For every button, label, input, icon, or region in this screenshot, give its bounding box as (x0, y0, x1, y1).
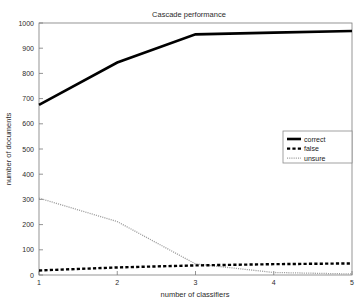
series-line-correct (39, 31, 352, 105)
x-tick-label: 5 (350, 279, 354, 286)
chart-title: Cascade performance (152, 10, 226, 19)
chart-legend: correctfalseunsure (283, 131, 352, 163)
y-tick-label: 900 (22, 45, 34, 52)
x-axis-title: number of classifiers (161, 290, 230, 299)
y-tick-label: 0 (30, 272, 34, 279)
y-tick-label: 400 (22, 171, 34, 178)
x-tick-label: 2 (115, 279, 119, 286)
y-tick-label: 1000 (18, 20, 34, 27)
y-axis-title: number of documents (4, 112, 13, 185)
series-line-unsure (39, 198, 352, 274)
y-tick-label: 700 (22, 95, 34, 102)
x-tick-label: 4 (272, 279, 276, 286)
legend-label-correct: correct (304, 136, 325, 143)
series-line-false (39, 263, 352, 270)
legend-label-unsure: unsure (304, 155, 326, 162)
y-tick-label: 100 (22, 246, 34, 253)
cascade-performance-chart: Cascade performance 01002003004005006007… (0, 0, 364, 303)
y-tick-label: 300 (22, 196, 34, 203)
y-tick-label: 800 (22, 70, 34, 77)
y-tick-label: 500 (22, 146, 34, 153)
x-tick-label: 1 (37, 279, 41, 286)
y-tick-label: 200 (22, 221, 34, 228)
chart-container: Cascade performance 01002003004005006007… (0, 0, 364, 303)
x-tick-label: 3 (194, 279, 198, 286)
y-tick-label: 600 (22, 120, 34, 127)
legend-label-false: false (304, 145, 319, 152)
